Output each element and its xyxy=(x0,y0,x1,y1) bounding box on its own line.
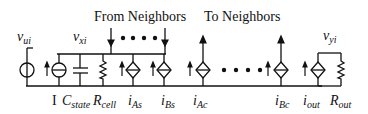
label-i-As: iAs xyxy=(128,94,142,110)
dependent-source-icon xyxy=(157,54,171,86)
label-C-state: Cstate xyxy=(62,94,90,110)
from-neighbors-label: From Neighbors xyxy=(94,10,186,24)
node-label-v-ui: vui xyxy=(17,30,31,46)
label-i-Bs: iBs xyxy=(161,94,175,110)
label-R-cell: Rcell xyxy=(93,94,116,110)
dependent-source-icon xyxy=(126,54,140,86)
node-label-v-yi: vyi xyxy=(323,29,336,45)
label-i-Bc: iBc xyxy=(275,94,289,110)
to-neighbors-label: To Neighbors xyxy=(204,10,280,24)
dependent-source-icon xyxy=(196,42,210,86)
label-i-Ac: iAc xyxy=(193,94,207,110)
node-label-v-xi: vxi xyxy=(73,30,86,46)
dependent-source-icon xyxy=(311,53,325,86)
resistor-icon xyxy=(338,53,344,86)
current-source-icon xyxy=(52,54,66,86)
label-R-out: Rout xyxy=(330,94,351,110)
voltage-source-icon xyxy=(20,48,34,86)
label-i-out: iout xyxy=(303,94,320,110)
capacitor-icon xyxy=(73,54,88,86)
resistor-icon xyxy=(100,54,106,86)
dependent-source-icon xyxy=(274,42,288,86)
label-I: I xyxy=(52,94,57,108)
